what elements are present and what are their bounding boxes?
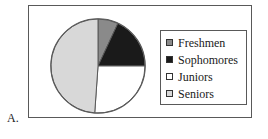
legend-swatch-freshmen [166,39,173,46]
legend-label-seniors: Seniors [178,88,214,100]
legend-swatch-seniors [166,90,173,97]
pie-svg [50,18,146,114]
pie-graphic [50,18,146,114]
legend-label-sophomores: Sophomores [178,54,238,66]
legend-item-seniors[interactable]: Seniors [166,85,242,102]
pie-slice-juniors[interactable] [95,66,145,113]
pie-slice-seniors[interactable] [51,19,98,113]
question-item-letter: A. [7,112,19,124]
legend: Freshmen Sophomores Juniors Seniors [160,30,247,105]
chart-frame: Freshmen Sophomores Juniors Seniors [28,5,252,118]
legend-item-juniors[interactable]: Juniors [166,68,242,85]
legend-label-freshmen: Freshmen [178,37,225,49]
pie-chart-figure: Freshmen Sophomores Juniors Seniors A. [0,0,268,139]
legend-swatch-sophomores [166,56,173,63]
pie-slice-group [51,19,145,113]
legend-item-sophomores[interactable]: Sophomores [166,51,242,68]
legend-item-freshmen[interactable]: Freshmen [166,34,242,51]
legend-swatch-juniors [166,73,173,80]
legend-label-juniors: Juniors [178,71,213,83]
